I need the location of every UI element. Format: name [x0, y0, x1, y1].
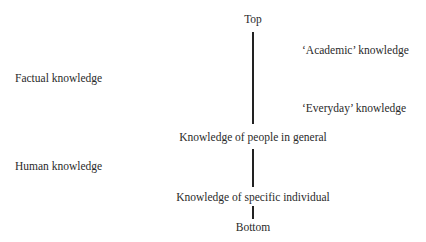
- label-factual-knowledge: Factual knowledge: [15, 71, 102, 85]
- label-everyday-knowledge: ‘Everyday’ knowledge: [302, 101, 406, 115]
- label-human-knowledge: Human knowledge: [15, 159, 102, 173]
- label-academic-knowledge: ‘Academic’ knowledge: [302, 43, 409, 57]
- label-bottom: Bottom: [236, 220, 271, 234]
- label-people-in-general: Knowledge of people in general: [179, 130, 327, 144]
- connector-general-to-specific: [252, 149, 254, 187]
- label-specific-individual: Knowledge of specific individual: [176, 190, 330, 204]
- connector-specific-to-bottom: [252, 206, 254, 219]
- connector-top-to-general: [252, 32, 254, 124]
- label-top: Top: [244, 12, 262, 26]
